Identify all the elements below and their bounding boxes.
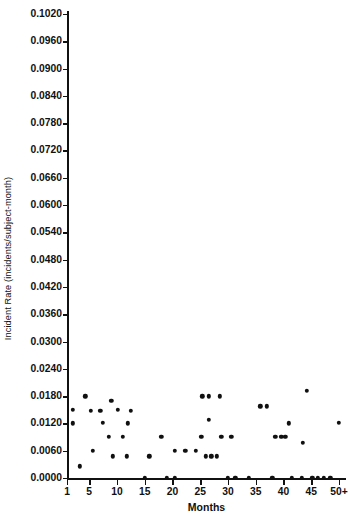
x-axis-tick-label: 35 xyxy=(250,487,261,497)
x-axis-tick-mark xyxy=(145,480,146,485)
y-axis-tick-label: 0.0540 xyxy=(16,227,62,237)
data-point xyxy=(172,449,176,453)
data-point xyxy=(78,464,82,468)
x-axis-tick-label: 30 xyxy=(222,487,233,497)
y-axis-tick-label: 0.0360 xyxy=(16,309,62,319)
y-axis-tick-mark xyxy=(63,96,68,97)
y-axis-tick-label: 0.0660 xyxy=(16,173,62,183)
y-axis-tick-label: 0.0600 xyxy=(16,200,62,210)
x-axis-tick-mark xyxy=(283,480,284,485)
y-axis-tick-mark xyxy=(63,451,68,452)
x-axis-tick-label: 25 xyxy=(194,487,205,497)
x-axis-tick-mark xyxy=(339,480,340,485)
data-point xyxy=(116,408,120,412)
x-axis-tick-mark xyxy=(256,480,257,485)
data-point xyxy=(194,449,198,453)
y-axis-tick-mark xyxy=(63,205,68,206)
data-point xyxy=(109,398,113,402)
y-axis-tick-mark xyxy=(63,342,68,343)
data-point xyxy=(217,394,221,398)
x-axis-tick-mark xyxy=(89,480,90,485)
x-axis-tick-mark xyxy=(117,480,118,485)
x-axis-tick-mark xyxy=(228,480,229,485)
data-point xyxy=(129,408,133,412)
y-axis-tick-mark xyxy=(63,478,68,479)
y-axis-tick-label: 0.0960 xyxy=(16,36,62,46)
data-point xyxy=(110,454,114,458)
y-axis-tick-mark xyxy=(63,260,68,261)
y-axis-line xyxy=(67,11,69,479)
data-point xyxy=(279,435,283,439)
y-axis-tick-label: 0.0420 xyxy=(16,282,62,292)
y-axis-tick-labels: 0.10200.09600.09000.08400.07800.07200.06… xyxy=(14,0,62,517)
y-axis-tick-mark xyxy=(63,41,68,42)
data-point xyxy=(125,454,129,458)
data-point xyxy=(204,454,208,458)
y-axis-tick-mark xyxy=(63,150,68,151)
data-point xyxy=(305,388,309,392)
data-point xyxy=(147,454,151,458)
data-point xyxy=(98,408,102,412)
y-axis-tick-label: 0.0060 xyxy=(16,446,62,456)
data-point xyxy=(287,421,291,425)
x-axis-tick-mark xyxy=(311,480,312,485)
data-point xyxy=(183,449,187,453)
data-point xyxy=(200,394,204,398)
y-axis-tick-mark xyxy=(63,287,68,288)
data-point xyxy=(337,420,341,424)
x-axis-tick-label: 1 xyxy=(64,487,70,497)
data-point xyxy=(199,435,203,439)
y-axis-tick-label: 0.0300 xyxy=(16,337,62,347)
x-axis-tick-label: 5 xyxy=(86,487,92,497)
data-point xyxy=(89,408,93,412)
y-axis-tick-mark xyxy=(63,423,68,424)
y-axis-tick-label: 0.0720 xyxy=(16,145,62,155)
x-axis-tick-label: 15 xyxy=(139,487,150,497)
y-axis-tick-label: 0.0120 xyxy=(16,418,62,428)
y-axis-tick-mark xyxy=(63,14,68,15)
data-point xyxy=(219,435,223,439)
data-point xyxy=(206,394,210,398)
x-axis-tick-mark xyxy=(172,480,173,485)
y-axis-tick-label: 0.0480 xyxy=(16,255,62,265)
y-axis-tick-label: 0.0000 xyxy=(16,473,62,483)
x-axis-tick-mark xyxy=(67,480,68,485)
data-point xyxy=(283,435,287,439)
data-point xyxy=(258,404,262,408)
data-point xyxy=(70,421,74,425)
x-axis-tick-label: 40 xyxy=(278,487,289,497)
data-point xyxy=(209,454,213,458)
x-axis-line xyxy=(67,478,346,480)
y-axis-tick-mark xyxy=(63,123,68,124)
data-point xyxy=(206,418,210,422)
y-axis-tick-label: 0.0780 xyxy=(16,118,62,128)
data-point xyxy=(159,435,163,439)
y-axis-tick-mark xyxy=(63,178,68,179)
y-axis-tick-label: 0.0840 xyxy=(16,91,62,101)
x-axis-tick-label: 45 xyxy=(306,487,317,497)
data-point xyxy=(100,420,104,424)
data-point xyxy=(106,435,110,439)
data-point xyxy=(265,404,269,408)
data-point xyxy=(126,421,130,425)
y-axis-tick-mark xyxy=(63,314,68,315)
y-axis-tick-mark xyxy=(63,69,68,70)
x-axis-tick-label: 50+ xyxy=(330,487,347,497)
data-point xyxy=(229,435,233,439)
data-point xyxy=(301,440,305,444)
y-axis-tick-mark xyxy=(63,369,68,370)
x-axis-tick-label: 10 xyxy=(111,487,122,497)
y-axis-tick-label: 0.0180 xyxy=(16,391,62,401)
y-axis-tick-mark xyxy=(63,396,68,397)
data-point xyxy=(215,454,219,458)
data-point xyxy=(273,435,277,439)
x-axis-tick-mark xyxy=(200,480,201,485)
data-point xyxy=(70,408,74,412)
y-axis-tick-label: 0.0900 xyxy=(16,64,62,74)
y-axis-tick-mark xyxy=(63,232,68,233)
x-axis-title: Months xyxy=(67,501,346,513)
scatter-chart: Incident Rate (incidents/subject-month) … xyxy=(0,0,349,517)
y-axis-tick-label: 0.1020 xyxy=(16,9,62,19)
data-point xyxy=(120,435,124,439)
y-axis-tick-label: 0.0240 xyxy=(16,364,62,374)
